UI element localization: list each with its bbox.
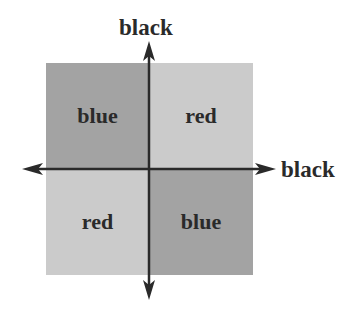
- horizontal-axis-label: black: [281, 158, 335, 181]
- vertical-axis-label: black: [119, 16, 173, 39]
- vertical-axis: [143, 41, 155, 300]
